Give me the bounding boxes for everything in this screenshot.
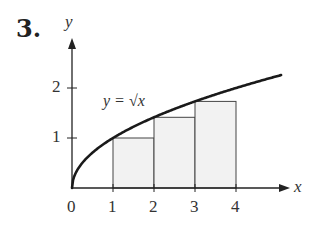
x-tick-label: 1 <box>108 197 117 217</box>
x-tick-label: 3 <box>190 197 199 217</box>
x-axis-label: x <box>294 177 302 197</box>
y-tick-label: 1 <box>52 127 61 147</box>
x-axis-arrow-icon <box>279 184 290 192</box>
x-tick-label: 2 <box>149 197 158 217</box>
rectangle-3 <box>195 101 236 188</box>
curve-label: y = √x <box>103 92 145 110</box>
x-tick-label: 0 <box>67 197 76 217</box>
y-tick-label: 2 <box>52 77 61 97</box>
rectangle-2 <box>154 117 195 188</box>
y-axis-arrow-icon <box>68 38 76 49</box>
riemann-sum-chart <box>0 0 315 229</box>
rectangles <box>113 101 236 188</box>
rectangle-1 <box>113 138 154 188</box>
y-axis-label: y <box>65 12 73 32</box>
x-tick-label: 4 <box>231 197 240 217</box>
